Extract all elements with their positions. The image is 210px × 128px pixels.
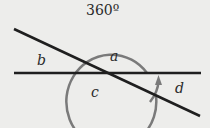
angle-a-label: a (110, 48, 118, 64)
full-turn-label: 360º (86, 2, 119, 18)
angle-b-label: b (37, 52, 46, 68)
diagram-graphic (0, 0, 210, 128)
angle-c-label: c (91, 84, 99, 100)
full-turn-arc (66, 55, 156, 128)
angle-d-label: d (175, 80, 184, 96)
arrowhead-icon (155, 75, 162, 85)
angles-diagram: 360º a b c d (0, 0, 210, 128)
